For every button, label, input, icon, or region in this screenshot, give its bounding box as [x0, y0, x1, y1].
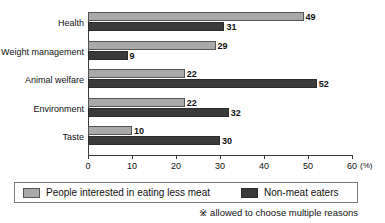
- x-axis-tick-label: 50: [303, 161, 313, 171]
- bar-value-label: 22: [187, 99, 197, 108]
- bar: [88, 108, 229, 117]
- category-label: Environment: [0, 104, 88, 114]
- bar: [88, 136, 220, 145]
- bar-value-label: 52: [319, 80, 329, 89]
- bar-value-label: 31: [226, 23, 236, 32]
- x-axis-tick-label: 40: [259, 161, 269, 171]
- bar-chart: 0102030405060 (%) Health4931Weight manag…: [0, 0, 385, 223]
- x-axis-tick: [308, 155, 309, 159]
- legend-item-non-meat-eaters: Non-meat eaters: [241, 187, 338, 198]
- bar-group: Health4931: [88, 12, 352, 41]
- category-label: Weight management: [0, 47, 88, 57]
- bar-value-label: 32: [231, 109, 241, 118]
- dark-gray-swatch-icon: [241, 188, 258, 198]
- bar-value-label: 22: [187, 70, 197, 79]
- bar: [88, 12, 304, 21]
- bar: [88, 98, 185, 107]
- category-label: Taste: [0, 132, 88, 142]
- bar: [88, 41, 216, 50]
- x-axis-tick: [88, 155, 89, 159]
- legend-label-people-interested: People interested in eating less meat: [46, 187, 210, 198]
- bar: [88, 51, 128, 60]
- x-axis-unit-label: (%): [360, 161, 372, 171]
- bar-value-label: 30: [222, 137, 232, 146]
- bar: [88, 22, 224, 31]
- x-axis-tick: [220, 155, 221, 159]
- bar-value-label: 29: [218, 42, 228, 51]
- x-axis-tick-label: 20: [171, 161, 181, 171]
- light-gray-swatch-icon: [23, 188, 40, 198]
- bar-group: Taste1030: [88, 126, 352, 155]
- bar-value-label: 49: [306, 13, 316, 22]
- x-axis-tick: [132, 155, 133, 159]
- bar-group: Weight management299: [88, 41, 352, 70]
- bar: [88, 79, 317, 88]
- bar-group: Environment2232: [88, 98, 352, 127]
- bar: [88, 69, 185, 78]
- x-axis-tick: [264, 155, 265, 159]
- chart-footnote: ※ allowed to choose multiple reasons: [199, 207, 358, 218]
- x-axis-tick-label: 10: [127, 161, 137, 171]
- category-label: Health: [0, 18, 88, 28]
- x-axis-tick-label: 30: [215, 161, 225, 171]
- legend-label-non-meat-eaters: Non-meat eaters: [264, 187, 338, 198]
- bar-group: Animal welfare2252: [88, 69, 352, 98]
- bar-value-label: 9: [130, 52, 135, 61]
- category-label: Animal welfare: [0, 75, 88, 85]
- x-axis-tick-label: 60: [347, 161, 357, 171]
- x-axis-tick-label: 0: [85, 161, 90, 171]
- chart-legend: People interested in eating less meat No…: [14, 182, 358, 203]
- bar: [88, 126, 132, 135]
- x-axis-tick: [352, 155, 353, 159]
- bar-value-label: 10: [134, 127, 144, 136]
- legend-item-people-interested: People interested in eating less meat: [23, 187, 210, 198]
- x-axis-tick: [176, 155, 177, 159]
